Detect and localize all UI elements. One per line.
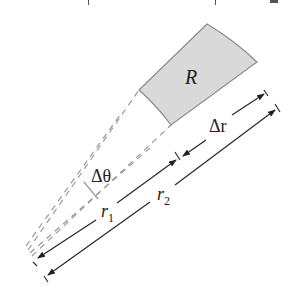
delta-theta-label: Δθ bbox=[91, 166, 111, 186]
region-label: R bbox=[184, 66, 197, 88]
delta-r-label: Δr bbox=[209, 116, 227, 136]
cropped-top-text bbox=[88, 0, 278, 5]
r1-label: r1 bbox=[101, 201, 114, 225]
polar-region-diagram: R Δθ r1 r2 Δr bbox=[0, 0, 298, 291]
r2-label: r2 bbox=[157, 184, 170, 208]
